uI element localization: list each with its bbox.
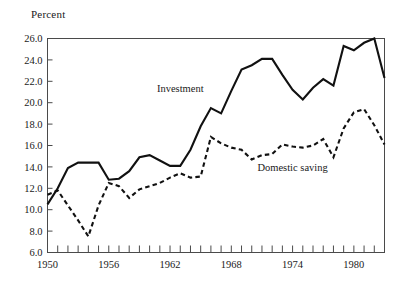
y-axis-tick-label: 14.0 [24, 162, 42, 173]
series-line-domestic-saving [48, 109, 385, 236]
y-axis-ticks [48, 39, 53, 253]
y-axis-tick-label: 16.0 [24, 140, 42, 151]
y-axis-tick-label: 20.0 [24, 97, 42, 108]
y-axis-tick-label: 22.0 [24, 76, 42, 87]
y-axis-tick-label: 24.0 [24, 55, 42, 66]
x-axis-tick-label: 1950 [37, 259, 58, 270]
figure-caption-partial [18, 279, 388, 289]
x-axis-tick-label: 1968 [221, 259, 242, 270]
chart-figure: Percent 6.08.010.012.014.016.018.020.022… [0, 0, 401, 291]
x-axis-ticks [48, 246, 385, 253]
x-axis-tick-labels: 195019561962196819741980 [37, 259, 364, 270]
y-axis-tick-label: 8.0 [29, 226, 42, 237]
x-axis-tick-label: 1962 [160, 259, 181, 270]
x-axis-tick-label: 1980 [343, 259, 364, 270]
y-axis-tick-label: 12.0 [24, 183, 42, 194]
line-chart-canvas: 6.08.010.012.014.016.018.020.022.024.026… [0, 0, 401, 291]
series-line-investment [48, 39, 385, 205]
y-axis-tick-labels: 6.08.010.012.014.016.018.020.022.024.026… [24, 33, 42, 258]
series-annotations: InvestmentDomestic saving [157, 83, 329, 173]
series-label-domestic-saving: Domestic saving [257, 162, 328, 173]
y-axis-tick-label: 10.0 [24, 204, 42, 215]
plot-frame [48, 39, 385, 253]
series-label-investment: Investment [157, 83, 204, 94]
y-axis-tick-label: 6.0 [29, 247, 42, 258]
x-axis-tick-label: 1956 [98, 259, 119, 270]
x-axis-tick-label: 1974 [282, 259, 304, 270]
y-axis-tick-label: 18.0 [24, 119, 42, 130]
y-axis-tick-label: 26.0 [24, 33, 42, 44]
